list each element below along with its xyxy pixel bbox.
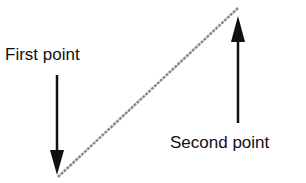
second-point-arrow-icon xyxy=(231,16,245,123)
diagram-graphics xyxy=(0,0,306,183)
first-point-label: First point xyxy=(5,45,80,65)
diagram-canvas: First point Second point xyxy=(0,0,306,183)
second-point-label: Second point xyxy=(170,133,269,153)
first-point-arrow-icon xyxy=(50,75,64,175)
